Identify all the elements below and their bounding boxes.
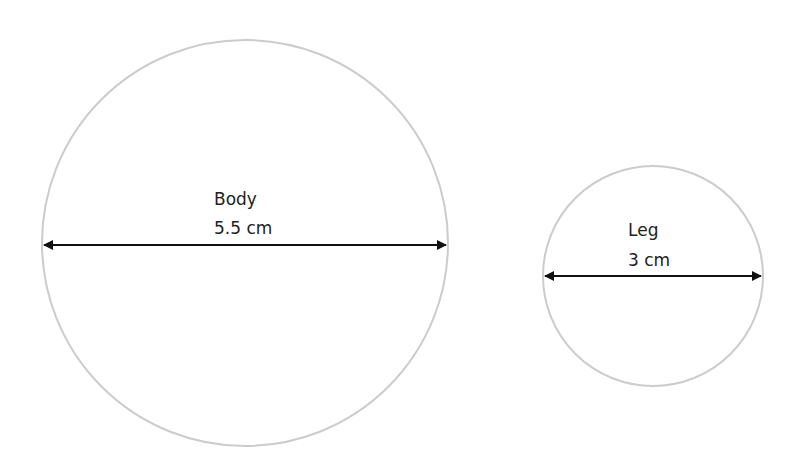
diagram-svg	[0, 0, 800, 475]
leg-circle-group	[543, 166, 763, 386]
body-circle-group	[42, 40, 448, 446]
leg-measurement-label: 3 cm	[628, 249, 670, 271]
body-measurement-label: 5.5 cm	[214, 217, 272, 239]
body-circle	[42, 40, 448, 446]
body-name-label: Body	[214, 188, 257, 210]
leg-name-label: Leg	[628, 219, 658, 241]
diagram-canvas: Body 5.5 cm Leg 3 cm	[0, 0, 800, 475]
